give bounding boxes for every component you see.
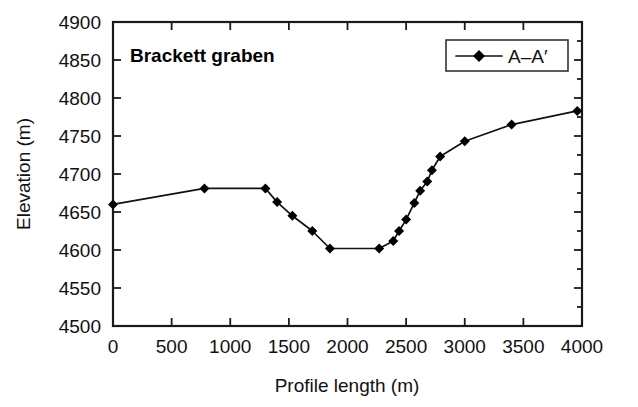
data-point-marker [401,215,411,225]
x-tick-label-1000: 1000 [209,336,251,357]
legend[interactable]: A–A′ [446,40,568,71]
x-tick-label-2500: 2500 [385,336,427,357]
data-point-marker [435,152,445,162]
chart-figure: 450045504600465047004750480048504900 050… [0,0,638,407]
data-point-marker [388,236,398,246]
plot-title: Brackett graben [130,45,275,66]
y-axis-tick-labels: 450045504600465047004750480048504900 [59,12,101,337]
data-point-marker [460,136,470,146]
x-tick-label-2000: 2000 [326,336,368,357]
data-point-marker [572,106,582,116]
x-tick-label-3500: 3500 [502,336,544,357]
data-point-marker [374,243,384,253]
data-series-group [108,106,582,254]
data-point-marker [507,120,517,130]
y-axis-title: Elevation (m) [13,118,34,230]
y-tick-label-4600: 4600 [59,240,101,261]
x-axis-title: Profile length (m) [275,375,420,396]
y-tick-label-4500: 4500 [59,316,101,337]
y-tick-label-4650: 4650 [59,202,101,223]
y-tick-label-4900: 4900 [59,12,101,33]
elevation-profile-chart: 450045504600465047004750480048504900 050… [0,0,638,407]
data-point-marker [409,198,419,208]
x-tick-label-0: 0 [108,336,119,357]
data-point-marker [199,183,209,193]
y-tick-label-4700: 4700 [59,164,101,185]
y-tick-label-4750: 4750 [59,126,101,147]
series-line-0 [113,111,577,249]
y-tick-label-4850: 4850 [59,50,101,71]
x-tick-label-500: 500 [156,336,188,357]
y-tick-label-4800: 4800 [59,88,101,109]
data-point-marker [108,199,118,209]
data-point-marker [427,165,437,175]
legend-label-a-a-prime: A–A′ [508,46,548,67]
y-tick-label-4550: 4550 [59,278,101,299]
x-axis-tick-labels: 05001000150020002500300035004000 [108,336,603,357]
x-tick-label-4000: 4000 [561,336,603,357]
data-point-marker [394,226,404,236]
x-tick-label-1500: 1500 [268,336,310,357]
x-tick-label-3000: 3000 [444,336,486,357]
